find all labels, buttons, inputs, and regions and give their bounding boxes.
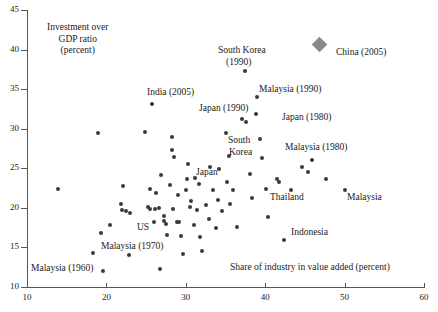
data-point	[168, 183, 172, 187]
data-point	[204, 203, 208, 207]
data-point	[211, 188, 215, 192]
data-point	[165, 233, 169, 237]
data-point	[300, 165, 304, 169]
data-point	[192, 223, 196, 227]
data-point	[127, 253, 131, 257]
x-tick-label-10: 10	[12, 293, 42, 302]
data-point	[128, 211, 132, 215]
data-point	[152, 220, 156, 224]
data-point	[200, 249, 204, 253]
y-tick-15	[21, 247, 28, 248]
data-point	[254, 112, 258, 116]
data-point	[96, 131, 100, 135]
y-tick-35	[21, 89, 28, 90]
point-label: Japan (1980)	[282, 112, 331, 123]
x-tick-label-40: 40	[250, 293, 280, 302]
point-label: South Korea	[218, 45, 266, 56]
data-point	[143, 130, 147, 134]
x-tick-60	[424, 283, 425, 288]
data-point	[197, 182, 201, 186]
data-point	[108, 223, 112, 227]
y-axis-title-line-2: GDP ratio	[47, 34, 108, 46]
y-tick-20	[21, 208, 28, 209]
data-point	[324, 177, 328, 181]
point-label: Japan	[196, 167, 218, 178]
data-point	[258, 137, 262, 141]
y-tick-45	[21, 10, 28, 11]
data-point	[119, 202, 123, 206]
data-point	[266, 215, 270, 219]
x-axis-title: Share of industry in value added (percen…	[230, 262, 390, 273]
data-point	[177, 220, 181, 224]
point-label: China (2005)	[336, 47, 386, 58]
data-point	[207, 217, 211, 221]
data-point	[158, 267, 162, 271]
data-point	[231, 188, 235, 192]
data-point	[189, 199, 193, 203]
y-axis-title-line-1: Investment over	[47, 22, 108, 34]
data-point	[243, 69, 247, 73]
data-point	[250, 196, 254, 200]
x-tick-50	[345, 283, 346, 288]
data-point	[310, 158, 314, 162]
data-point	[282, 238, 286, 242]
data-point	[172, 155, 176, 159]
x-tick-40	[265, 283, 266, 288]
x-tick-30	[186, 283, 187, 288]
data-point	[228, 202, 232, 206]
point-label: Malaysia (1990)	[259, 84, 322, 95]
y-tick-label-40: 40	[0, 45, 19, 54]
point-label: Korea	[229, 147, 252, 158]
point-label: South	[228, 135, 250, 146]
data-point	[101, 269, 105, 273]
data-point	[148, 187, 152, 191]
point-label: Thailand	[270, 192, 304, 203]
point-label: (1990)	[226, 57, 251, 68]
data-point	[181, 252, 185, 256]
data-point-china-2005	[311, 37, 327, 53]
data-point	[159, 173, 163, 177]
data-point	[179, 234, 183, 238]
data-point	[244, 120, 248, 124]
data-point	[121, 184, 125, 188]
y-tick-label-15: 15	[0, 242, 19, 251]
data-point	[164, 222, 168, 226]
point-label: Japan (1990)	[199, 103, 248, 114]
data-point	[255, 95, 259, 99]
data-point	[56, 187, 60, 191]
data-point	[248, 172, 252, 176]
x-tick-label-50: 50	[330, 293, 360, 302]
data-point	[170, 135, 174, 139]
data-point	[91, 251, 95, 255]
y-tick-label-20: 20	[0, 203, 19, 212]
point-label: Malaysia	[347, 192, 382, 203]
point-label: Malaysia (1980)	[285, 142, 348, 153]
data-point	[225, 180, 229, 184]
point-label: India (2005)	[147, 87, 194, 98]
scatter-chart: 1015202530354045102030405060 Investment …	[0, 0, 438, 312]
x-tick-10	[27, 283, 28, 288]
x-tick-label-60: 60	[409, 293, 438, 302]
y-axis-title-line-3: (percent)	[47, 45, 108, 57]
data-point	[214, 226, 218, 230]
data-point	[171, 207, 175, 211]
x-tick-20	[106, 283, 107, 288]
y-tick-label-10: 10	[0, 282, 19, 291]
data-point	[306, 170, 310, 174]
data-point	[188, 205, 192, 209]
data-point	[277, 180, 281, 184]
data-point	[150, 102, 154, 106]
point-label: Indonesia	[291, 227, 328, 238]
y-tick-25	[21, 168, 28, 169]
data-point	[220, 209, 224, 213]
data-point	[235, 225, 239, 229]
data-point	[264, 187, 268, 191]
data-point	[176, 193, 180, 197]
y-tick-30	[21, 129, 28, 130]
data-point	[186, 162, 190, 166]
x-tick-label-20: 20	[91, 293, 121, 302]
point-label: Malaysia (1970)	[101, 241, 164, 252]
data-point	[195, 208, 199, 212]
data-point	[148, 207, 152, 211]
y-tick-label-25: 25	[0, 163, 19, 172]
